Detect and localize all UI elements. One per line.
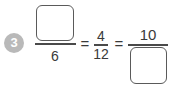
denominator-answer-box[interactable] (130, 47, 167, 84)
fraction-bar-3 (128, 44, 168, 46)
problem-number-badge: 3 (4, 33, 24, 53)
numerator-2: 4 (94, 29, 108, 43)
fraction-bar-1 (35, 43, 76, 45)
equivalent-fractions-problem: 3 6 = 4 12 = 10 (0, 0, 175, 94)
denominator-2: 12 (92, 47, 110, 61)
numerator-answer-box[interactable] (36, 5, 74, 41)
equals-sign-2: = (113, 36, 125, 51)
equals-sign-1: = (79, 36, 91, 51)
denominator-1: 6 (48, 49, 62, 63)
numerator-3: 10 (137, 28, 159, 42)
